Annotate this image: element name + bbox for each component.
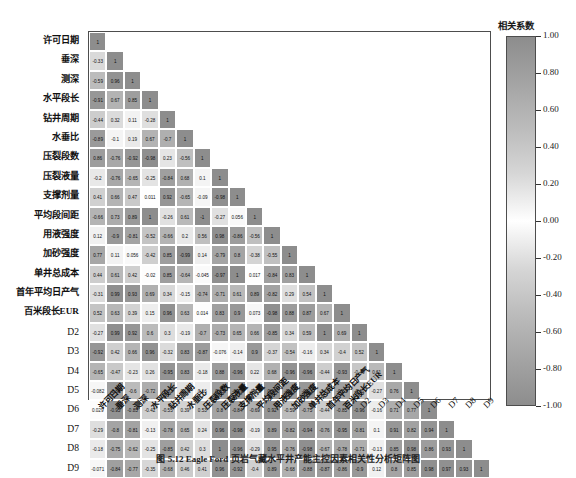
heatmap-cell-empty [455, 129, 472, 148]
heatmap-cell-empty [159, 51, 176, 70]
y-axis-label: 压裂段数 [0, 147, 84, 166]
heatmap-cell: 0.96 [141, 342, 158, 361]
heatmap-cell-empty [368, 148, 385, 167]
heatmap-cell-empty [351, 284, 368, 303]
heatmap-cell: 0.89 [246, 284, 263, 303]
heatmap-cell-empty [298, 90, 315, 109]
heatmap-cell-empty [316, 129, 333, 148]
heatmap-cell-empty [316, 51, 333, 70]
colorbar-tick-label: 1.00 [543, 30, 559, 40]
heatmap-cell: 0.9 [246, 342, 263, 361]
heatmap-cell-empty [473, 129, 490, 148]
heatmap-cell: -0.045 [194, 265, 211, 284]
heatmap-cell-empty [368, 265, 385, 284]
heatmap-cell-empty [246, 71, 263, 90]
heatmap-cell: 0.6 [141, 323, 158, 342]
heatmap-cell-empty [281, 207, 298, 226]
heatmap-cell-empty [124, 51, 141, 70]
heatmap-cell-empty [263, 129, 280, 148]
y-axis-label: D7 [0, 419, 84, 438]
heatmap-cell-empty [420, 51, 437, 70]
heatmap-cell: -0.91 [89, 90, 106, 109]
heatmap-cell-empty [176, 51, 193, 70]
heatmap-cell-empty [263, 207, 280, 226]
heatmap-cell: 0.47 [124, 187, 141, 206]
heatmap-cell: 0.66 [106, 187, 123, 206]
heatmap-row: 0.410.660.470.0110.92-0.65-0.09-0.981 [89, 187, 490, 206]
heatmap-cell: -0.92 [89, 342, 106, 361]
heatmap-cell-empty [455, 207, 472, 226]
heatmap-cell-empty [281, 226, 298, 245]
heatmap-cell-empty [368, 207, 385, 226]
heatmap-row: -0.2-0.76-0.65-0.25-0.840.680.11 [89, 168, 490, 187]
heatmap-cell-empty [455, 284, 472, 303]
heatmap-cell-empty [438, 51, 455, 70]
heatmap-cell-empty [385, 323, 402, 342]
y-axis-label: D2 [0, 322, 84, 341]
heatmap-cell: -1 [194, 207, 211, 226]
y-axis-label: 测深 [0, 70, 84, 89]
heatmap-cell-empty [368, 303, 385, 322]
heatmap-cell: 1 [316, 284, 333, 303]
heatmap-cell-empty [368, 187, 385, 206]
heatmap-cell: 0.61 [229, 284, 246, 303]
heatmap-cell-empty [473, 265, 490, 284]
heatmap-cell: 0.99 [106, 284, 123, 303]
heatmap-cell-empty [473, 342, 490, 361]
heatmap-cell-empty [420, 265, 437, 284]
heatmap-cell-empty [420, 323, 437, 342]
heatmap-cell: 0.73 [106, 207, 123, 226]
heatmap-cell-empty [420, 226, 437, 245]
heatmap-cell-empty [229, 148, 246, 167]
y-axis-label: D5 [0, 380, 84, 399]
heatmap-cell-empty [351, 187, 368, 206]
heatmap-cell-empty [229, 129, 246, 148]
heatmap-cell: -0.98 [141, 148, 158, 167]
colorbar-tick-label: 0.80 [543, 67, 559, 77]
heatmap-cell: -0.54 [281, 342, 298, 361]
heatmap-cell-empty [385, 71, 402, 90]
heatmap-cell-empty [333, 148, 350, 167]
heatmap-cell-empty [385, 187, 402, 206]
heatmap-cell-empty [281, 51, 298, 70]
heatmap-cell-empty [281, 90, 298, 109]
heatmap-cell-empty [333, 71, 350, 90]
heatmap-cell-empty [368, 51, 385, 70]
heatmap-cell-empty [403, 323, 420, 342]
heatmap-cell-empty [159, 71, 176, 90]
heatmap-cell-empty [438, 187, 455, 206]
heatmap-cell-empty [333, 284, 350, 303]
heatmap-cell-empty [385, 110, 402, 129]
heatmap-row: 0.770.110.056-0.420.85-0.990.14-0.790.8-… [89, 245, 490, 264]
heatmap-cell: 0.98 [211, 226, 228, 245]
heatmap-cell: 0.8 [229, 245, 246, 264]
heatmap-cell-empty [455, 148, 472, 167]
heatmap-cell-empty [420, 32, 437, 51]
heatmap-cell-empty [351, 110, 368, 129]
colorbar-tick [536, 110, 541, 111]
heatmap-cell: -0.52 [141, 226, 158, 245]
colorbar-tick [536, 295, 541, 296]
heatmap-cell: 0.22 [246, 362, 263, 381]
heatmap-cell-empty [263, 110, 280, 129]
heatmap-cell: 0.88 [281, 303, 298, 322]
heatmap-cell-empty [385, 90, 402, 109]
heatmap-cell-empty [455, 323, 472, 342]
heatmap-cell: 0.12 [89, 226, 106, 245]
heatmap-cell-empty [438, 71, 455, 90]
heatmap-cell-empty [246, 129, 263, 148]
heatmap-cell-empty [246, 90, 263, 109]
heatmap-cell: -0.87 [194, 342, 211, 361]
heatmap-cell-empty [316, 71, 333, 90]
heatmap-cell: -0.96 [229, 362, 246, 381]
heatmap-cell: 0.32 [106, 110, 123, 129]
heatmap-cell: 0.63 [176, 303, 193, 322]
heatmap-cell-empty [455, 265, 472, 284]
heatmap-cell: 0.34 [316, 342, 333, 361]
heatmap-cell-empty [351, 226, 368, 245]
heatmap-cell: 0.14 [194, 245, 211, 264]
heatmap-cell-empty [211, 71, 228, 90]
heatmap-cell-empty [351, 245, 368, 264]
heatmap-cell-empty [298, 71, 315, 90]
heatmap-cell-empty [473, 187, 490, 206]
